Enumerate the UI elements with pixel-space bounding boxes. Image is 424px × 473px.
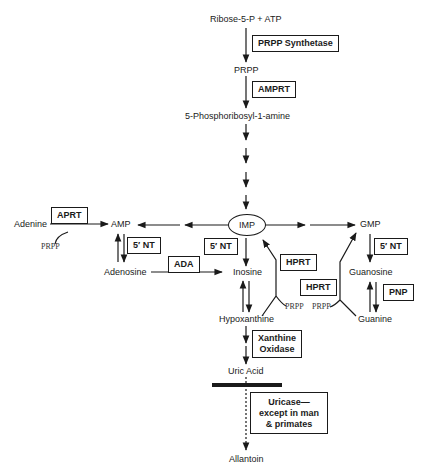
node-guanosine: Guanosine (349, 268, 393, 277)
node-inosine: Inosine (233, 268, 262, 277)
pathway-arrows (0, 0, 424, 473)
enzyme-5nt-amp: 5′ NT (127, 237, 161, 254)
uricase-line3: & primates (259, 419, 319, 430)
enzyme-5nt-imp: 5′ NT (204, 238, 238, 255)
xanthine-oxidase-line1: Xanthine (258, 333, 296, 344)
node-hypoxanthine: Hypoxanthine (219, 315, 274, 324)
enzyme-pnp: PNP (383, 284, 414, 301)
node-phosphoribosylamine: 5-Phosphoribosyl-1-amine (185, 112, 290, 121)
node-amp: AMP (111, 220, 131, 229)
node-adenosine: Adenosine (104, 268, 147, 277)
node-gmp: GMP (360, 220, 381, 229)
enzyme-uricase: Uricase— except in man & primates (250, 392, 328, 434)
enzyme-prpp-synthetase: PRPP Synthetase (252, 35, 339, 52)
block-bar (212, 383, 282, 387)
node-allantoin: Allantoin (229, 455, 264, 464)
node-uric-acid: Uric Acid (228, 367, 264, 376)
cofactor-prpp-guanine: PRPP (312, 303, 331, 311)
enzyme-amprt: AMPRT (252, 81, 296, 98)
node-imp: IMP (228, 214, 266, 236)
cofactor-prpp-hypoxanthine: PRPP (285, 303, 304, 311)
enzyme-hprt-guanine: HPRT (300, 279, 337, 296)
node-prpp: PRPP (234, 66, 259, 75)
enzyme-hprt-inosine: HPRT (280, 254, 317, 271)
node-adenine: Adenine (14, 220, 47, 229)
cofactor-prpp-adenine: PRPP (41, 243, 60, 251)
enzyme-5nt-gmp: 5′ NT (374, 238, 408, 255)
enzyme-xanthine-oxidase: Xanthine Oxidase (252, 330, 302, 358)
uricase-line2: except in man (259, 408, 319, 419)
xanthine-oxidase-line2: Oxidase (258, 344, 296, 355)
node-guanine: Guanine (358, 315, 392, 324)
uricase-line1: Uricase— (259, 397, 319, 408)
node-ribose: Ribose-5-P + ATP (210, 15, 281, 24)
enzyme-ada: ADA (168, 256, 200, 273)
enzyme-aprt: APRT (51, 207, 88, 224)
